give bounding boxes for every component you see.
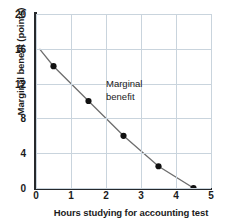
y-axis-tick-label: 20 [4, 9, 26, 20]
x-axis-title: Hours studying for accounting test [36, 207, 226, 218]
x-axis-tick-label: 5 [201, 190, 221, 201]
data-point-marker [120, 133, 126, 139]
gridline-horizontal [36, 153, 211, 154]
y-axis-tick-label: 16 [4, 43, 26, 54]
x-axis-tick-label: 4 [166, 190, 186, 201]
data-point-marker [50, 63, 56, 69]
gridline-vertical [36, 14, 37, 188]
gridline-horizontal [36, 14, 211, 15]
gridline-vertical [71, 14, 72, 188]
x-axis-tick-label: 0 [26, 190, 46, 201]
x-axis-tick-label: 1 [61, 190, 81, 201]
gridline-vertical [211, 14, 212, 188]
gridline-vertical [176, 14, 177, 188]
x-axis-tick-label: 3 [131, 190, 151, 201]
chart-figure: Marginal benefit (points) Marginal benef… [0, 0, 226, 219]
y-axis-tick-label: 4 [4, 148, 26, 159]
gridline-horizontal [36, 49, 211, 50]
gridline-horizontal [36, 118, 211, 119]
data-point-marker [155, 163, 161, 169]
plot-area: Marginal benefit [36, 14, 211, 188]
data-point-marker [85, 98, 91, 104]
y-axis-tick-label: 0 [4, 183, 26, 194]
y-axis-tick-label: 12 [4, 78, 26, 89]
gridline-horizontal [36, 188, 211, 189]
x-axis-tick-label: 2 [96, 190, 116, 201]
series-annotation-marginal-benefit: Marginal benefit [106, 78, 142, 103]
y-axis-tick-label: 8 [4, 113, 26, 124]
